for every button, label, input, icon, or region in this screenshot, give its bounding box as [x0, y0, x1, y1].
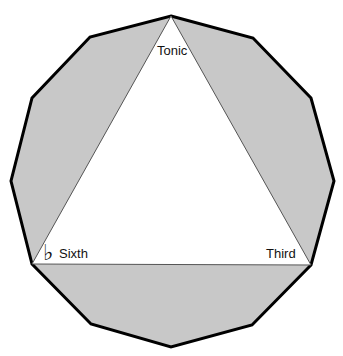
augmented-triad-diagram: Tonic Third ♭ Sixth	[0, 0, 343, 356]
sixth-label: Sixth	[59, 246, 88, 261]
third-label: Third	[266, 246, 296, 261]
tonic-label: Tonic	[157, 43, 188, 58]
flat-accidental-icon: ♭	[43, 240, 53, 265]
